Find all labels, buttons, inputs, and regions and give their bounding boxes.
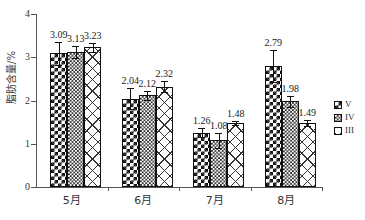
error-bar [147, 91, 148, 101]
plot-area: 3.093.133.232.042.122.321.261.081.482.79… [36, 14, 322, 187]
error-bar-cap-top [72, 46, 79, 47]
x-tick-label: 5月 [52, 195, 92, 207]
error-bar-cap-top [198, 128, 205, 129]
x-tick-mark [322, 187, 323, 191]
error-bar-cap-bottom [270, 82, 277, 83]
error-bar-cap-bottom [89, 52, 96, 53]
error-bar-cap-bottom [144, 100, 151, 101]
bar-v-7月 [193, 133, 210, 187]
legend-item-iv[interactable]: IV [334, 112, 364, 123]
bar-iii-8月 [299, 123, 316, 187]
data-label: 1.48 [223, 109, 249, 119]
error-bar-cap-top [144, 91, 151, 92]
error-bar-cap-bottom [127, 109, 134, 110]
fat-content-bar-chart: 脂肪含量/% 43210 3.093.133.232.042.122.321.2… [0, 0, 365, 220]
y-tick-mark [31, 101, 36, 102]
y-tick-label: 1 [14, 139, 30, 149]
error-bar-cap-top [89, 43, 96, 44]
error-bar-cap-bottom [287, 107, 294, 108]
error-bar [59, 42, 60, 65]
y-tick-mark [31, 57, 36, 58]
error-bar-cap-top [161, 81, 168, 82]
legend-label: V [345, 100, 352, 109]
error-bar [130, 88, 131, 109]
error-bar [76, 46, 77, 58]
data-label: 1.49 [294, 108, 320, 118]
error-bar-cap-bottom [55, 65, 62, 66]
bar-iv-5月 [67, 52, 84, 187]
error-bar [219, 133, 220, 148]
data-label: 2.79 [260, 38, 286, 48]
error-bar [290, 96, 291, 107]
error-bar-cap-top [270, 50, 277, 51]
error-bar-cap-top [287, 96, 294, 97]
error-bar-cap-top [127, 88, 134, 89]
legend: VIVIII [334, 99, 364, 138]
legend-item-iii[interactable]: III [334, 125, 364, 136]
bar-v-5月 [50, 53, 67, 187]
x-tick-mark [108, 187, 109, 191]
error-bar [273, 50, 274, 82]
error-bar [93, 43, 94, 52]
bar-iii-7月 [227, 123, 244, 187]
y-tick-label: 3 [14, 52, 30, 62]
error-bar-cap-top [304, 120, 311, 121]
x-tick-label: 6月 [123, 195, 163, 207]
error-bar-cap-top [55, 42, 62, 43]
error-bar-cap-bottom [198, 137, 205, 138]
y-tick-mark [31, 187, 36, 188]
data-label: 3.23 [80, 31, 106, 41]
error-bar [164, 81, 165, 92]
error-bar-cap-top [232, 121, 239, 122]
error-bar-cap-bottom [215, 148, 222, 149]
error-bar-cap-top [215, 133, 222, 134]
data-label: 2.32 [151, 69, 177, 79]
legend-label: III [345, 126, 354, 135]
error-bar [202, 128, 203, 138]
error-bar-cap-bottom [232, 125, 239, 126]
error-bar-cap-bottom [161, 92, 168, 93]
legend-item-v[interactable]: V [334, 99, 364, 110]
legend-swatch-icon [334, 127, 342, 135]
x-tick-mark [179, 187, 180, 191]
data-label: 1.98 [277, 84, 303, 94]
x-tick-label: 8月 [266, 195, 306, 207]
bar-iv-6月 [139, 95, 156, 187]
y-tick-mark [31, 144, 36, 145]
bar-iii-5月 [84, 47, 101, 187]
x-tick-mark [251, 187, 252, 191]
error-bar-cap-bottom [72, 58, 79, 59]
y-tick-label: 2 [14, 96, 30, 106]
y-tick-mark [31, 14, 36, 15]
x-tick-label: 7月 [195, 195, 235, 207]
error-bar-cap-bottom [304, 126, 311, 127]
legend-swatch-icon [334, 101, 342, 109]
bar-iii-6月 [156, 87, 173, 187]
y-tick-label: 4 [14, 9, 30, 19]
y-tick-label: 0 [14, 182, 30, 192]
bar-v-6月 [122, 99, 139, 187]
legend-label: IV [345, 113, 355, 122]
legend-swatch-icon [334, 114, 342, 122]
